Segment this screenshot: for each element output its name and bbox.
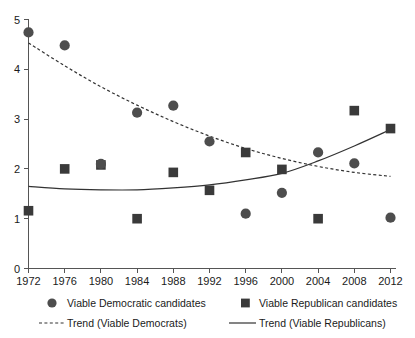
dem-point-1976 xyxy=(60,40,70,50)
x-tick-label-1972: 1972 xyxy=(16,275,40,287)
dem-point-2012 xyxy=(385,213,395,223)
dem-point-1988 xyxy=(168,101,178,111)
rep-point-1988 xyxy=(169,168,179,178)
scatter-chart: 0 1 2 3 4 5 1972 1976 1980 1984 1988 199… xyxy=(0,0,415,338)
x-tick-label-1992: 1992 xyxy=(197,275,221,287)
dem-point-2008 xyxy=(349,158,359,168)
x-tick-label-2000: 2000 xyxy=(270,275,294,287)
legend-dem-points-label: Viable Democratic candidates xyxy=(67,297,206,309)
chart-container: 0 1 2 3 4 5 1972 1976 1980 1984 1988 199… xyxy=(0,0,415,338)
x-tick-label-2012: 2012 xyxy=(378,275,402,287)
legend-rep-points-label: Viable Republican candidates xyxy=(259,297,397,309)
legend-rep-square-icon xyxy=(241,299,250,308)
rep-point-2008 xyxy=(350,106,360,116)
rep-point-2004 xyxy=(313,214,323,224)
rep-point-1996 xyxy=(241,148,251,158)
x-tick-label-1988: 1988 xyxy=(161,275,185,287)
rep-point-2012 xyxy=(386,124,396,134)
dem-trend-line xyxy=(29,43,391,176)
y-tick-label-3: 3 xyxy=(14,113,20,125)
rep-point-1972 xyxy=(24,206,34,216)
y-tick-label-5: 5 xyxy=(14,14,20,26)
dem-point-1984 xyxy=(132,108,142,118)
y-tick-label-1: 1 xyxy=(14,213,20,225)
legend-dem-circle-icon xyxy=(47,298,56,307)
dem-point-2000 xyxy=(277,188,287,198)
dem-point-1996 xyxy=(241,209,251,219)
dem-point-1992 xyxy=(204,136,214,146)
chart-legend: Viable Democratic candidates Viable Repu… xyxy=(39,297,397,329)
legend-rep-trend-label: Trend (Viable Republicans) xyxy=(259,317,386,329)
x-tick-label-2004: 2004 xyxy=(306,275,330,287)
dem-point-2004 xyxy=(313,147,323,157)
legend-dem-trend-label: Trend (Viable Democrats) xyxy=(67,317,187,329)
x-tick-label-1976: 1976 xyxy=(52,275,76,287)
y-tick-label-4: 4 xyxy=(14,63,20,75)
rep-point-1976 xyxy=(60,164,70,174)
y-tick-label-0: 0 xyxy=(14,263,20,275)
dem-point-1972 xyxy=(23,27,33,37)
rep-point-1984 xyxy=(132,214,142,224)
dem-point-1980 xyxy=(96,159,106,169)
rep-point-1992 xyxy=(205,186,215,196)
x-tick-label-1980: 1980 xyxy=(89,275,113,287)
x-tick-label-2008: 2008 xyxy=(342,275,366,287)
y-axis-ticks xyxy=(24,20,29,269)
rep-point-2000 xyxy=(277,165,287,175)
x-axis-ticks xyxy=(29,269,391,274)
y-tick-label-2: 2 xyxy=(14,163,20,175)
x-tick-label-1996: 1996 xyxy=(233,275,257,287)
rep-data-markers xyxy=(24,106,396,224)
x-tick-label-1984: 1984 xyxy=(125,275,149,287)
